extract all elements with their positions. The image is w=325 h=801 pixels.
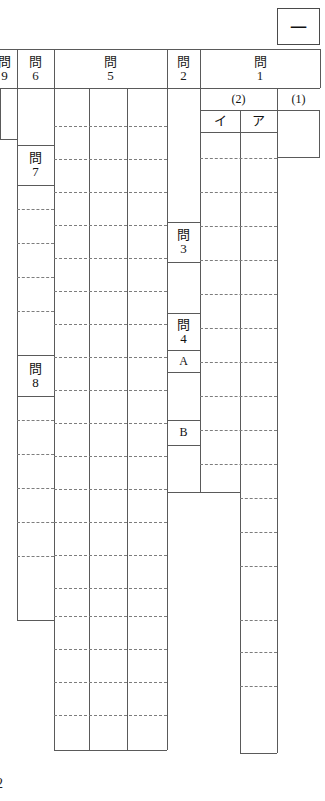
q2-col-right-edge-top	[200, 88, 201, 132]
q5-bottom-rule	[54, 750, 167, 751]
answer-cell-q8[interactable]	[17, 396, 54, 620]
q1-a-right-edge	[277, 132, 278, 753]
header-q2: 問 2	[167, 49, 200, 88]
answer-cell-q1-part1[interactable]	[277, 110, 320, 158]
q5-right-edge-lower	[167, 492, 168, 750]
row-label-q3: 問 3	[167, 222, 200, 262]
answer-cell-q7[interactable]	[17, 185, 54, 355]
header-q9-number: 9	[1, 69, 8, 83]
header-q2-kanji: 問	[177, 55, 190, 69]
answer-cell-q4-a[interactable]	[167, 372, 200, 420]
q2-col-bottom-rule	[167, 492, 200, 493]
footer-page-number: 2	[0, 776, 12, 798]
header-q9-kanji: 問	[0, 55, 11, 69]
answer-cell-q4-b[interactable]	[167, 445, 200, 492]
row-label-q8: 問 8	[17, 355, 54, 396]
answer-cell-q5-col2[interactable]	[89, 88, 127, 750]
header-q5: 問 5	[54, 49, 167, 88]
row-label-a: A	[167, 350, 200, 372]
q9-bottom-rule	[0, 139, 17, 140]
answer-cell-q6[interactable]	[17, 88, 54, 145]
q1-a-bottom-rule	[240, 753, 277, 754]
row-label-b: B	[167, 420, 200, 445]
answer-cell-q9[interactable]	[0, 88, 17, 139]
q1-part1-label: (1)	[277, 88, 320, 110]
answer-cell-q5-col1[interactable]	[127, 88, 167, 750]
answer-cell-q5-col3[interactable]	[54, 88, 89, 750]
header-q6-kanji: 問	[29, 55, 42, 69]
header-q9: 問 9	[0, 49, 17, 88]
answer-sheet: 一 問 9 問 6 問 5 問 2 問 1 (2) (1) イ	[0, 0, 325, 801]
header-q5-number: 5	[107, 69, 114, 83]
header-q1-number: 1	[257, 69, 264, 83]
q6-col-bottom-rule	[17, 620, 54, 621]
section-mark-box: 一	[277, 8, 320, 45]
answer-cell-q2[interactable]	[167, 88, 200, 222]
q1-part2-label: (2)	[200, 88, 277, 110]
header-q5-kanji: 問	[104, 55, 117, 69]
q1-kana-a-label: ア	[240, 110, 277, 132]
header-q6: 問 6	[17, 49, 54, 88]
q1-kana-i-label: イ	[200, 110, 240, 132]
header-right-edge	[320, 49, 321, 88]
section-mark-label: 一	[290, 14, 307, 39]
header-q2-number: 2	[180, 69, 187, 83]
answer-cell-q3[interactable]	[167, 262, 200, 313]
row-label-q4: 問 4	[167, 313, 200, 350]
answer-cell-q1-kana-a[interactable]	[240, 132, 277, 753]
header-q6-number: 6	[32, 69, 39, 83]
answer-cell-q1-kana-i[interactable]	[200, 132, 240, 492]
row-label-q7: 問 7	[17, 145, 54, 185]
header-q1-kanji: 問	[254, 55, 267, 69]
header-q1: 問 1	[200, 49, 320, 88]
q1-i-bottom-rule	[200, 492, 240, 493]
